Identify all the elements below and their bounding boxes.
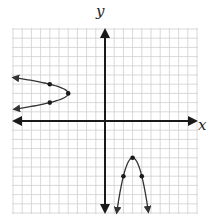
- y-axis-label: y: [96, 2, 104, 20]
- data-point: [66, 91, 71, 96]
- data-point: [121, 174, 126, 179]
- data-point: [48, 82, 53, 87]
- data-point: [130, 156, 135, 161]
- coordinate-plane: [0, 0, 214, 218]
- data-point: [140, 174, 145, 179]
- curves: [13, 77, 148, 213]
- x-axis-label: x: [198, 116, 206, 134]
- data-point: [48, 100, 53, 105]
- axes: [14, 30, 196, 212]
